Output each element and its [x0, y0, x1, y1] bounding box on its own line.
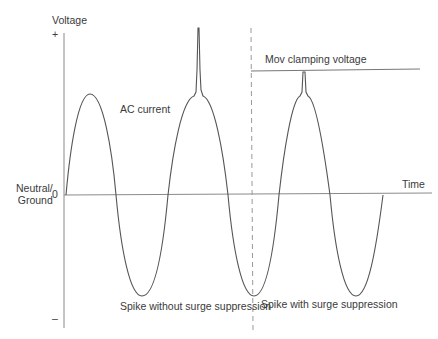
divider-dashed-line: [251, 28, 253, 332]
time-axis-label: Time: [402, 178, 425, 190]
neutral-ground-line1: Neutral/: [16, 182, 53, 194]
clamping-voltage-label: Mov clamping voltage: [265, 53, 367, 65]
voltage-axis-label: Voltage: [52, 14, 87, 26]
time-axis: [64, 193, 432, 195]
neutral-ground-line2: Ground: [18, 194, 53, 206]
spike-without-suppression-label: Spike without surge suppression: [120, 300, 271, 312]
ac-current-label: AC current: [120, 103, 170, 115]
surge-diagram: [0, 0, 438, 339]
ac-waveform: [66, 28, 383, 296]
positive-sign: +: [52, 28, 58, 40]
clamping-voltage-line: [251, 69, 420, 71]
neutral-ground-label: Neutral/ Ground: [16, 182, 53, 206]
spike-with-suppression-label: Spike with surge suppression: [261, 298, 398, 310]
negative-sign: –: [52, 312, 58, 324]
